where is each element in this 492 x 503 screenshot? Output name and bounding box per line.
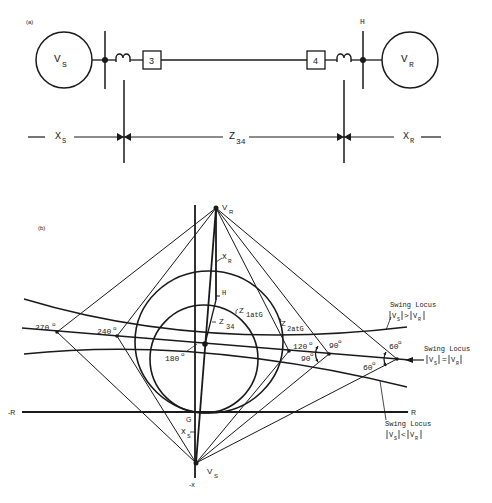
xs-label-sub: S	[187, 433, 191, 440]
receiver-label-sub: R	[409, 60, 414, 69]
origin-point	[202, 341, 208, 347]
vs-label-sub: S	[214, 473, 218, 479]
breaker-3-label: 3	[149, 56, 154, 66]
point-60	[395, 357, 399, 361]
axis-neg-x-label: -x	[189, 481, 195, 488]
vr-label: V	[222, 203, 228, 212]
dim-xs-label: X	[55, 131, 61, 142]
point-120	[287, 349, 291, 353]
point-90	[327, 352, 331, 356]
z1atg-label-sub: 1atG	[246, 311, 263, 319]
source-label: V	[54, 53, 61, 65]
operator: >	[404, 311, 409, 320]
swing-locus-equal-annotation: Swing Locus V S = V R	[405, 345, 470, 367]
dim-z34-label: Z	[229, 131, 235, 142]
operator: <	[401, 430, 406, 439]
vs-point	[194, 461, 199, 466]
operator: =	[442, 355, 447, 364]
bus-h-label: H	[360, 17, 365, 26]
vr-sub: R	[418, 317, 421, 323]
dim-xs-sub: S	[62, 137, 66, 145]
z1atg-label: Z	[239, 306, 244, 315]
z34-label: Z	[219, 317, 224, 326]
receiver-label: V	[401, 53, 408, 65]
swing-greater-title: Swing Locus	[390, 301, 436, 309]
arrow-left-icon	[405, 357, 413, 363]
vs-label: V	[207, 467, 213, 476]
ct-coil-right-icon	[337, 54, 351, 62]
swing-less-title: Swing Locus	[385, 420, 431, 428]
g-point-label: G	[186, 416, 191, 423]
leader-line	[380, 381, 386, 420]
degree-sign: o	[338, 338, 342, 345]
panel-label-b: (b)	[38, 225, 45, 231]
z1-leader	[236, 309, 238, 314]
degree-sign: o	[310, 351, 314, 358]
xr-label-sub: R	[228, 258, 232, 265]
panel-label-a: (a)	[26, 19, 33, 25]
degree-sign: o	[52, 321, 56, 328]
point-240	[115, 334, 119, 338]
point-270	[55, 330, 59, 334]
bus-h-node	[360, 57, 366, 63]
dim-xr-sub: R	[410, 137, 415, 145]
degree-sign: o	[309, 340, 313, 347]
degree-sign: o	[113, 325, 117, 332]
degree-sign: o	[398, 339, 402, 346]
vs-sub: S	[434, 361, 437, 367]
breaker-4-label: 4	[313, 56, 318, 66]
diagram-canvas: (a) V S 3 4 H V R X S Z	[0, 0, 492, 503]
vs-sub: S	[397, 317, 400, 323]
degree-sign: o	[181, 351, 185, 358]
angle-180-label: 180	[165, 354, 180, 363]
one-line-diagram: (a) V S 3 4 H V R X S Z	[26, 17, 441, 163]
angle-120-label: 120	[293, 342, 308, 351]
z2atg-label-sub: 2atG	[287, 325, 304, 333]
h-point-label: H	[222, 289, 226, 297]
vs-sub: S	[394, 436, 397, 442]
vr-label-sub: R	[229, 209, 234, 215]
axis-neg-r-label: -R	[8, 409, 15, 416]
swing-equal-title: Swing Locus	[424, 345, 470, 353]
vr-sub: R	[415, 436, 418, 442]
angle-240-label: 240	[97, 327, 112, 336]
dim-xr-label: X	[403, 131, 409, 142]
degree-sign: o	[372, 360, 376, 367]
angle-270-label: 270	[35, 323, 50, 332]
swing-locus-greater-annotation: Swing Locus V S > V R	[386, 301, 436, 330]
vr-sub: R	[456, 361, 459, 367]
ct-coil-left-icon	[116, 54, 130, 62]
xs-label: X	[181, 427, 186, 436]
vr-point	[214, 206, 219, 211]
rays-from-vs	[57, 332, 397, 463]
source-label-sub: S	[62, 60, 67, 69]
xr-label: X	[222, 252, 227, 261]
rays-from-vr	[57, 208, 397, 359]
rx-diagram: (b) -R R -x	[8, 203, 470, 488]
axis-pos-r-label: R	[411, 409, 416, 416]
system-impedance-line	[196, 208, 216, 463]
z34-label-sub: 34	[226, 323, 234, 331]
bus-s-node	[102, 57, 108, 63]
z2atg-label: Z	[281, 319, 286, 328]
dim-z34-sub: 34	[236, 137, 246, 146]
